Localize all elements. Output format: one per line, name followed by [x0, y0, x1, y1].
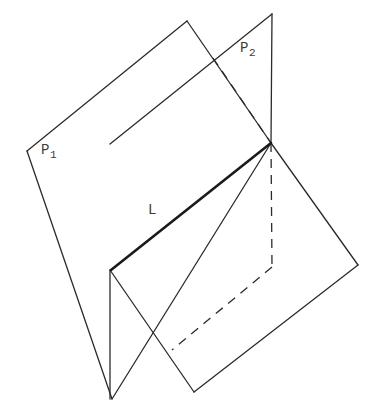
- intersection-line-label-base: L: [148, 202, 156, 218]
- plane-1-label-subscript: 1: [50, 149, 57, 161]
- plane-2-hidden-edge-vertical: [271, 143, 272, 267]
- geometry-canvas: [0, 0, 379, 416]
- intersection-line-L: [111, 143, 271, 270]
- plane-2-edge-bottom-right: [194, 265, 358, 392]
- plane-1-label: P1: [41, 143, 57, 161]
- plane-2-edge-right-upper: [271, 14, 272, 143]
- plane-1-edge-lower-left: [27, 151, 112, 399]
- plane-intersection-diagram: P1 P2 L: [0, 0, 379, 416]
- plane-1-label-base: P: [41, 142, 49, 158]
- plane-1-edge-upper-left: [27, 21, 187, 151]
- plane-2-label-subscript: 2: [249, 47, 256, 59]
- plane-2-edge-right-lower: [271, 143, 358, 265]
- hidden-edges-group: [172, 58, 272, 350]
- plane-2-label-base: P: [240, 40, 248, 56]
- plane-2-edge-top-left: [110, 14, 272, 144]
- plane-1-edge-lower-right: [112, 143, 271, 399]
- plane-2-label: P2: [240, 41, 256, 59]
- intersection-line-label: L: [148, 203, 156, 217]
